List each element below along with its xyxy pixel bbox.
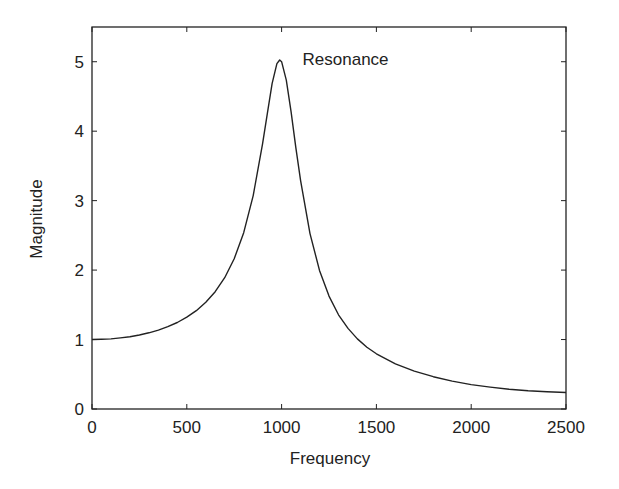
y-tick-label: 4 (75, 122, 84, 141)
x-tick-label: 2500 (547, 418, 585, 437)
x-tick-label: 500 (173, 418, 201, 437)
x-tick-label: 1000 (263, 418, 301, 437)
x-tick-label: 1500 (357, 418, 395, 437)
magnitude-curve (92, 60, 566, 393)
magnitude-chart: 05001000150020002500 012345 Resonance Fr… (0, 0, 619, 489)
y-tick-label: 0 (75, 400, 84, 419)
plot-frame (92, 27, 566, 409)
y-tick-label: 5 (75, 53, 84, 72)
y-tick-label: 2 (75, 261, 84, 280)
y-axis-ticks: 012345 (75, 53, 566, 419)
plot-border (92, 27, 566, 409)
x-tick-label: 2000 (452, 418, 490, 437)
x-tick-label: 0 (87, 418, 96, 437)
x-axis-label: Frequency (290, 449, 371, 468)
resonance-annotation: Resonance (303, 50, 389, 69)
y-axis-label: Magnitude (27, 179, 46, 258)
y-tick-label: 3 (75, 192, 84, 211)
x-axis-ticks: 05001000150020002500 (87, 27, 585, 437)
y-tick-label: 1 (75, 331, 84, 350)
